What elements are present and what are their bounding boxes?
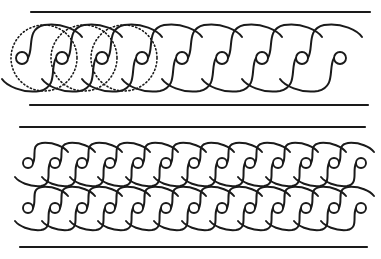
eye-loop — [50, 158, 60, 168]
strand-upper-arc — [308, 24, 362, 58]
eye-loop — [96, 52, 108, 64]
strand-lower-arc — [162, 58, 216, 92]
strand-lower-arc — [2, 58, 56, 92]
eye-loop — [50, 203, 60, 213]
eye-loop — [216, 52, 228, 64]
strand-upper-arc — [228, 24, 282, 58]
bottom-double-guilloche-band — [15, 127, 374, 247]
eye-loop — [105, 203, 115, 213]
eye-loop — [245, 203, 255, 213]
bottom-band-strands — [15, 143, 374, 230]
eye-loop — [56, 52, 68, 64]
eye-loop — [329, 158, 339, 168]
eye-loop — [273, 203, 283, 213]
eye-loop — [161, 158, 171, 168]
eye-loop — [105, 158, 115, 168]
eye-loop — [176, 52, 188, 64]
strand-lower-arc — [280, 58, 334, 92]
top-guilloche-band — [2, 12, 370, 105]
eye-loop — [136, 52, 148, 64]
eye-loop — [356, 203, 366, 213]
eye-loop — [23, 158, 33, 168]
eye-loop — [217, 203, 227, 213]
strand-upper-arc — [268, 24, 322, 58]
strand-lower-arc — [202, 58, 256, 92]
eye-loop — [329, 203, 339, 213]
strand-upper-arc — [28, 24, 82, 58]
eye-loop — [301, 203, 311, 213]
eye-loop — [189, 158, 199, 168]
eye-loop — [133, 203, 143, 213]
eye-loop — [161, 203, 171, 213]
eye-loop — [189, 203, 199, 213]
eye-loop — [356, 158, 366, 168]
eye-loop — [334, 52, 346, 64]
eye-loop — [77, 158, 87, 168]
eye-loop — [133, 158, 143, 168]
eye-loop — [296, 52, 308, 64]
guilloche-ornament-figure — [0, 0, 381, 259]
strand-lower-arc — [42, 58, 96, 92]
strand-upper-arc — [188, 24, 242, 58]
eye-loop — [77, 203, 87, 213]
eye-loop — [301, 158, 311, 168]
eye-loop — [273, 158, 283, 168]
eye-loop — [23, 203, 33, 213]
strand-lower-arc — [122, 58, 176, 92]
strand-lower-arc — [82, 58, 136, 92]
eye-loop — [245, 158, 255, 168]
eye-loop — [256, 52, 268, 64]
eye-loop — [217, 158, 227, 168]
top-band-eye-loops — [16, 52, 346, 64]
eye-loop — [16, 52, 28, 64]
